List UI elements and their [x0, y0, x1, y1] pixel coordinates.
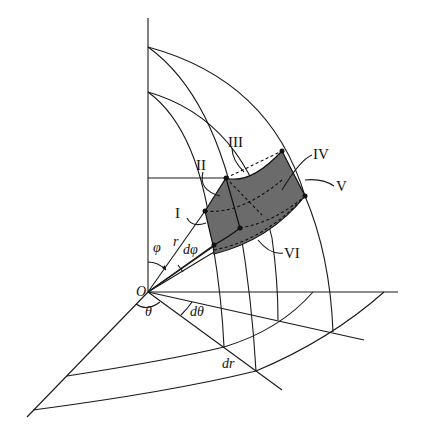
- corner-dot: [212, 243, 217, 248]
- volume-element-fill: [205, 151, 305, 254]
- corner-dot: [238, 226, 243, 231]
- dr-label: dr: [222, 356, 235, 371]
- volume-element: [203, 149, 308, 255]
- leader-V: [305, 180, 334, 186]
- r-label: r: [173, 234, 179, 249]
- dtheta-label: dθ: [190, 304, 204, 319]
- phi-angle-arc: [148, 262, 166, 270]
- x-axis: [27, 292, 148, 417]
- radial-line-aux-1: [148, 252, 214, 292]
- face-label-IV: IV: [313, 146, 329, 162]
- face-label-III: III: [228, 134, 243, 150]
- corner-dot: [280, 149, 285, 154]
- dphi-label: dφ: [183, 242, 198, 257]
- face-label-V: V: [336, 178, 347, 194]
- leader-III: [232, 148, 244, 172]
- face-label-I: I: [175, 205, 180, 221]
- phi-label: φ: [153, 240, 161, 255]
- face-label-II: II: [196, 157, 206, 173]
- origin-label: O: [136, 284, 146, 299]
- spherical-coordinate-volume-element-diagram: O φ r dφ θ dθ dr I II III IV V VI: [0, 0, 422, 438]
- corner-dot: [203, 209, 208, 214]
- theta-label: θ: [145, 304, 152, 319]
- face-label-VI: VI: [284, 245, 300, 261]
- corner-dot: [303, 194, 308, 199]
- leader-VI: [258, 240, 283, 253]
- corner-dot: [224, 176, 229, 181]
